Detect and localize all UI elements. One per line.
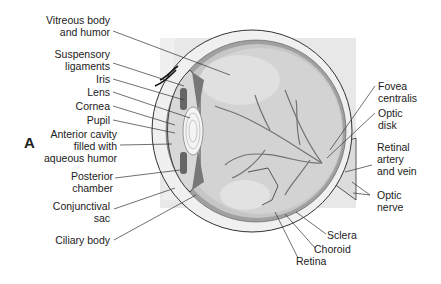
- label-line: disk: [378, 119, 403, 131]
- label-line: aqueous humor: [44, 152, 117, 164]
- label-pupil: Pupil: [87, 114, 110, 126]
- label-vitreous-body: Vitreous body and humor: [46, 14, 110, 38]
- label-line: sac: [53, 212, 110, 224]
- label-line: and humor: [46, 26, 110, 38]
- label-line: nerve: [377, 201, 403, 213]
- label-line: chamber: [71, 182, 113, 194]
- label-optic-disk: Optic disk: [378, 107, 403, 131]
- label-sclera: Sclera: [327, 229, 357, 241]
- label-optic-nerve: Optic nerve: [377, 189, 403, 213]
- label-retina: Retina: [296, 255, 326, 267]
- label-line: ligaments: [55, 60, 110, 72]
- label-line: Anterior cavity: [44, 128, 117, 140]
- label-line: Vitreous body: [46, 14, 110, 26]
- label-ciliary-body: Ciliary body: [55, 234, 110, 246]
- label-line: Conjunctival: [53, 200, 110, 212]
- label-line: Fovea: [378, 80, 417, 92]
- label-cornea: Cornea: [76, 100, 110, 112]
- label-line: artery: [377, 153, 417, 165]
- label-lens: Lens: [87, 86, 110, 98]
- label-line: Posterior: [71, 170, 113, 182]
- label-fovea-centralis: Fovea centralis: [378, 80, 417, 104]
- label-posterior-chamber: Posterior chamber: [71, 170, 113, 194]
- label-choroid: Choroid: [314, 243, 351, 255]
- label-anterior-cavity: Anterior cavity filled with aqueous humo…: [44, 128, 117, 164]
- label-retinal-artery-vein: Retinal artery and vein: [377, 141, 417, 177]
- label-line: Optic: [377, 189, 403, 201]
- label-line: Retinal: [377, 141, 417, 153]
- iris-lower: [180, 152, 187, 174]
- label-line: and vein: [377, 165, 417, 177]
- panel-letter: A: [24, 134, 35, 151]
- label-line: Optic: [378, 107, 403, 119]
- label-suspensory-ligaments: Suspensory ligaments: [55, 48, 110, 72]
- label-line: filled with: [44, 140, 117, 152]
- label-line: Suspensory: [55, 48, 110, 60]
- label-iris: Iris: [96, 73, 110, 85]
- label-conjunctival-sac: Conjunctival sac: [53, 200, 110, 224]
- label-line: centralis: [378, 92, 417, 104]
